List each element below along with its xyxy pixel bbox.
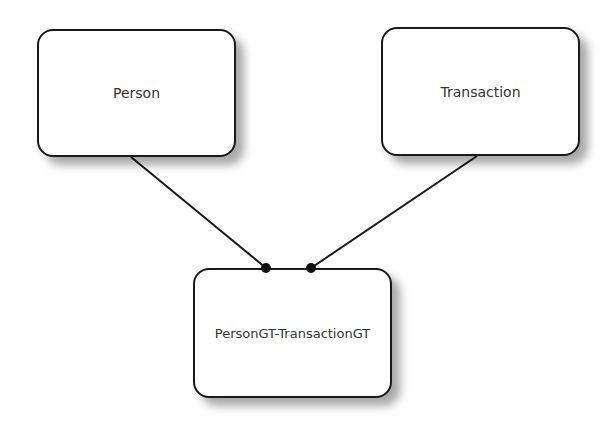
connector-dots (0, 0, 615, 431)
connector-dot-icon (306, 263, 316, 273)
connector-dot-icon (261, 263, 271, 273)
